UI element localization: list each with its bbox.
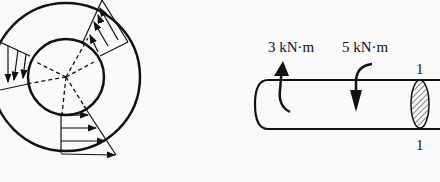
section-label-bottom: 1 — [416, 137, 424, 153]
shaft-diagram: 3 kN·m 5 kN·m 1 1 — [255, 39, 440, 153]
torque-label-3: 3 kN·m — [268, 39, 315, 55]
figure-canvas: 3 kN·m 5 kN·m 1 1 — [0, 0, 440, 182]
dashed-radii — [26, 38, 94, 114]
torque-label-5: 5 kN·m — [342, 39, 389, 55]
section-hatch — [411, 80, 429, 128]
torque-5-icon — [350, 64, 372, 112]
torque-3-icon — [274, 61, 290, 112]
outer-circle — [0, 3, 140, 151]
stress-wedge-left — [0, 42, 30, 90]
section-label-top: 1 — [416, 61, 424, 77]
annulus-diagram — [0, 0, 140, 155]
